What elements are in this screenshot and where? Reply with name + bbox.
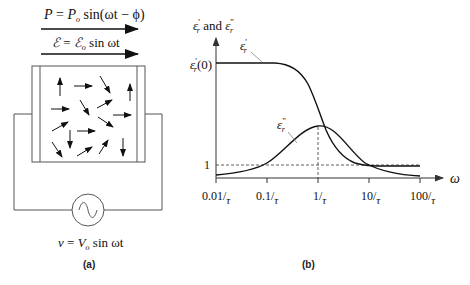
x-tick-3: 10/τ <box>361 190 380 206</box>
x-tick-num: 100 <box>410 189 428 203</box>
caption-b: (b) <box>302 259 315 270</box>
x-tick-num: 0.1 <box>256 189 271 203</box>
eq-rest: sin(ωt − ϕ) <box>80 7 145 22</box>
x-tick-1: 0.1/τ <box>256 190 278 206</box>
x-axis-label: ω <box>450 172 460 186</box>
x-tick-2: 1/τ <box>313 190 326 206</box>
x-tick-num: 0.01 <box>202 189 223 203</box>
imag-label-sub: r <box>282 125 285 134</box>
x-tick-den: τ <box>274 194 278 206</box>
eq-amplitude: V <box>78 235 86 250</box>
curve-label-imag: ε"r <box>277 117 285 134</box>
y-tick-one: 1 <box>204 159 210 171</box>
field-equation: ℰ = ℰo sin ωt <box>52 36 120 52</box>
y-axis-label: ε'r and ε"r <box>193 18 233 35</box>
x-tick-num: 10 <box>361 189 373 203</box>
eq-rest: sin ωt <box>86 35 120 50</box>
x-tick-den: τ <box>322 194 326 206</box>
eq-amplitude: ℰ <box>74 35 82 50</box>
eps0-arg: (0) <box>197 57 212 72</box>
eq-sign: = <box>53 7 68 22</box>
eq-lhs: ℰ <box>52 35 60 50</box>
source-equation: v = Vo sin ωt <box>58 236 123 252</box>
eq-sign: = <box>64 235 78 250</box>
y-label-sub-b: r <box>230 26 233 35</box>
x-tick-den: τ <box>226 194 230 206</box>
x-tick-0: 0.01/τ <box>202 190 230 206</box>
caption-a: (a) <box>83 259 95 270</box>
chart-axes <box>216 38 443 183</box>
eq-lhs: P <box>44 7 53 22</box>
real-label-sub: r <box>244 46 247 55</box>
eq-sign: = <box>60 35 74 50</box>
curve-label-leaders <box>251 52 297 143</box>
y-tick-eps0: ε'r(0) <box>190 57 212 74</box>
real-permittivity-curve <box>216 63 420 166</box>
x-tick-den: τ <box>431 194 435 206</box>
x-tick-den: τ <box>376 194 380 206</box>
eq-amplitude: P <box>67 7 76 22</box>
curve-label-real: ε'r <box>240 38 247 55</box>
y-label-mid: and <box>200 18 225 33</box>
dipole-arrows <box>51 76 131 157</box>
eq-rest: sin ωt <box>90 235 124 250</box>
ac-source-icon <box>72 194 104 226</box>
x-tick-4: 100/τ <box>410 190 435 206</box>
polarization-equation: P = Po sin(ωt − ϕ) <box>44 8 145 24</box>
